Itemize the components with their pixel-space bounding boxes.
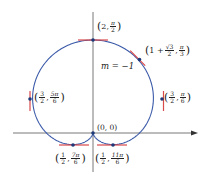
label-right-point: (32,π6)	[164, 91, 191, 104]
label-left-point: (32,5π6)	[34, 91, 65, 104]
label-upper-right-point: (1 +√32,π3)	[145, 44, 190, 57]
label-top-point: (2,π2)	[97, 20, 121, 33]
slope-label: m = −1	[101, 62, 134, 71]
x-axis-arrow-icon	[191, 131, 198, 136]
label-bottom-right-point: (12,11π6)	[95, 152, 130, 165]
origin-label: (0, 0)	[97, 124, 117, 132]
label-bottom-left-point: (12,7π6)	[55, 152, 86, 165]
